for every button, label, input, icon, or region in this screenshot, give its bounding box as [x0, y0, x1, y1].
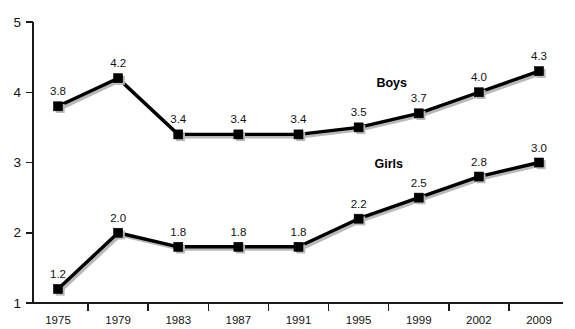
data-point-marker[interactable] [294, 130, 303, 139]
series-line-shadow [60, 73, 541, 136]
y-axis-ticks [26, 22, 33, 303]
data-point-marker[interactable] [535, 67, 544, 76]
data-point-label: 4.2 [110, 57, 126, 69]
y-tick-label: 3 [13, 155, 21, 170]
data-point-label: 3.8 [50, 85, 66, 97]
data-point-marker[interactable] [114, 228, 123, 237]
data-point-label: 1.8 [170, 226, 186, 238]
x-tick-label-2002: 2002 [466, 314, 492, 326]
data-point-label: 3.4 [230, 113, 247, 125]
data-point-label: 1.8 [230, 226, 246, 238]
data-point-label: 3.4 [291, 113, 308, 125]
data-point-marker[interactable] [354, 123, 363, 132]
data-point-marker[interactable] [414, 109, 423, 118]
data-point-marker[interactable] [114, 74, 123, 83]
data-point-marker[interactable] [474, 172, 483, 181]
chart-canvas: 12345 1975197919831987199119951999200220… [0, 0, 575, 329]
data-point-label: 2.5 [411, 177, 427, 189]
data-point-marker[interactable] [54, 284, 63, 293]
y-tick-label: 5 [13, 15, 21, 30]
x-tick-label-1995: 1995 [346, 314, 372, 326]
data-point-marker[interactable] [54, 102, 63, 111]
data-point-label: 2.8 [471, 156, 487, 168]
data-point-marker[interactable] [535, 158, 544, 167]
data-point-marker[interactable] [294, 242, 303, 251]
data-point-marker[interactable] [414, 193, 423, 202]
data-point-label: 1.2 [50, 268, 66, 280]
data-point-marker[interactable] [234, 130, 243, 139]
data-point-label: 4.0 [471, 71, 487, 83]
data-point-label: 3.7 [411, 92, 427, 104]
x-tick-label-1991: 1991 [286, 314, 312, 326]
data-point-marker[interactable] [174, 130, 183, 139]
x-axis-tick-labels: 197519791983198719911995199920022009 [45, 314, 552, 326]
data-point-marker[interactable] [174, 242, 183, 251]
series-layer [54, 67, 546, 296]
x-tick-label-2009: 2009 [526, 314, 552, 326]
data-point-marker[interactable] [234, 242, 243, 251]
series-annotation-boys: Boys [376, 76, 407, 90]
data-point-label: 1.8 [291, 226, 307, 238]
y-tick-label: 4 [13, 85, 21, 100]
data-point-label: 3.5 [351, 106, 367, 118]
data-point-marker[interactable] [354, 214, 363, 223]
data-point-label: 4.3 [531, 50, 547, 62]
x-tick-label-1983: 1983 [165, 314, 191, 326]
x-tick-label-1987: 1987 [226, 314, 252, 326]
x-tick-label-1975: 1975 [45, 314, 71, 326]
data-point-label: 2.2 [351, 198, 367, 210]
line-chart: 12345 1975197919831987199119951999200220… [0, 0, 575, 329]
data-point-label: 3.4 [170, 113, 187, 125]
x-tick-label-1979: 1979 [105, 314, 131, 326]
x-tick-label-1999: 1999 [406, 314, 432, 326]
y-axis-tick-labels: 12345 [13, 15, 21, 311]
x-axis-ticks [88, 303, 509, 311]
y-tick-label: 1 [13, 296, 21, 311]
data-point-marker[interactable] [474, 88, 483, 97]
series-annotation-girls: Girls [374, 157, 403, 171]
data-point-label: 3.0 [531, 142, 547, 154]
data-point-label: 2.0 [110, 212, 126, 224]
y-tick-label: 2 [13, 225, 21, 240]
